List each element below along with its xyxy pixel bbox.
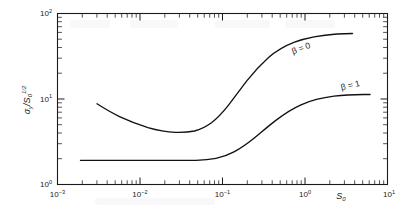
curve-label-beta-1: β = 1 <box>340 78 361 92</box>
x-tick-label-1: 10−2 <box>132 189 147 199</box>
y-tick-label-2: 102 <box>40 8 52 18</box>
y-axis-title-exp: 1/2 <box>21 85 27 94</box>
x-axis-ticks <box>58 14 388 185</box>
x-tick-label-0: 10−3 <box>50 189 65 199</box>
y-tick-label-0: 100 <box>40 179 52 189</box>
x-tick-label-2: 10−1 <box>215 189 230 199</box>
plot-frame <box>58 14 388 185</box>
y-tick-label-1: 101 <box>40 93 52 103</box>
x-tick-label-3: 100 <box>299 189 311 199</box>
x-axis-title: S0 <box>336 191 346 202</box>
x-tick-label-4: 101 <box>383 189 395 199</box>
curve-beta-1 <box>81 95 371 161</box>
log-log-plot: 10−3 10−2 10−1 100 101 100 101 102 σy/S0… <box>0 0 412 212</box>
y-axis-title-s-sub: 0 <box>27 93 33 97</box>
y-axis-title: σy/S01/2 <box>21 85 33 114</box>
x-axis-title-sub: 0 <box>342 196 346 202</box>
curve-beta-0 <box>97 34 353 133</box>
svg-text:σy/S01/2: σy/S01/2 <box>21 85 33 114</box>
y-axis-ticks <box>58 14 388 185</box>
figure-container: 10−3 10−2 10−1 100 101 100 101 102 σy/S0… <box>0 0 412 212</box>
y-tick-labels: 100 101 102 <box>40 8 52 189</box>
